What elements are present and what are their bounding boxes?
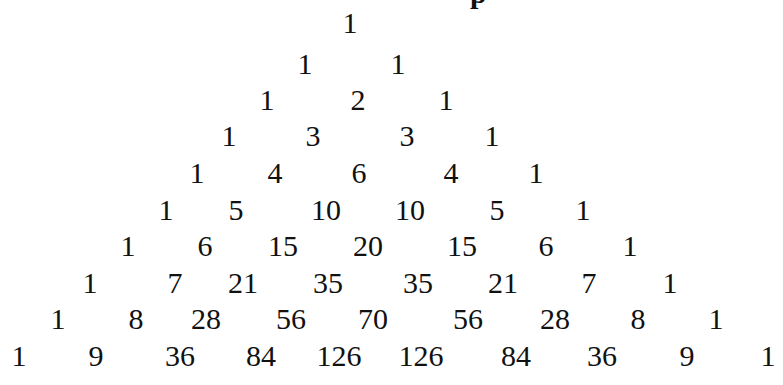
triangle-cell: 10 bbox=[395, 195, 425, 225]
triangle-cell: 3 bbox=[400, 121, 415, 151]
triangle-cell: 1 bbox=[222, 121, 237, 151]
triangle-cell: 28 bbox=[191, 304, 221, 334]
triangle-cell: 9 bbox=[89, 341, 104, 371]
triangle-cell: 1 bbox=[83, 268, 98, 298]
triangle-cell: 35 bbox=[313, 268, 343, 298]
triangle-cell: 28 bbox=[540, 304, 570, 334]
triangle-cell: 7 bbox=[168, 268, 183, 298]
triangle-cell: 1 bbox=[343, 8, 358, 38]
triangle-cell: 6 bbox=[198, 231, 213, 261]
triangle-cell: 1 bbox=[51, 304, 66, 334]
triangle-cell: 8 bbox=[129, 304, 144, 334]
triangle-cell: 9 bbox=[680, 341, 695, 371]
clipped-title-fragment: p bbox=[470, 0, 487, 8]
triangle-cell: 21 bbox=[228, 268, 258, 298]
triangle-cell: 8 bbox=[631, 304, 646, 334]
triangle-cell: 3 bbox=[306, 121, 321, 151]
triangle-cell: 1 bbox=[576, 195, 591, 225]
triangle-cell: 1 bbox=[623, 231, 638, 261]
triangle-cell: 36 bbox=[587, 341, 617, 371]
triangle-cell: 1 bbox=[121, 231, 136, 261]
triangle-cell: 84 bbox=[501, 341, 531, 371]
triangle-cell: 4 bbox=[268, 158, 283, 188]
triangle-cell: 1 bbox=[439, 85, 454, 115]
triangle-cell: 1 bbox=[159, 195, 174, 225]
triangle-cell: 6 bbox=[539, 231, 554, 261]
triangle-cell: 4 bbox=[444, 158, 459, 188]
triangle-cell: 10 bbox=[311, 195, 341, 225]
triangle-cell: 2 bbox=[351, 85, 366, 115]
triangle-cell: 1 bbox=[663, 268, 678, 298]
triangle-cell: 36 bbox=[165, 341, 195, 371]
triangle-cell: 70 bbox=[358, 304, 388, 334]
triangle-cell: 35 bbox=[403, 268, 433, 298]
pascals-triangle: p 11112113311464115101051161520156117213… bbox=[0, 0, 783, 385]
triangle-cell: 15 bbox=[447, 231, 477, 261]
triangle-cell: 126 bbox=[317, 341, 362, 371]
triangle-cell: 1 bbox=[298, 49, 313, 79]
triangle-cell: 126 bbox=[399, 341, 444, 371]
triangle-cell: 21 bbox=[488, 268, 518, 298]
triangle-cell: 1 bbox=[391, 49, 406, 79]
triangle-cell: 56 bbox=[276, 304, 306, 334]
triangle-cell: 1 bbox=[190, 158, 205, 188]
triangle-cell: 7 bbox=[582, 268, 597, 298]
triangle-cell: 6 bbox=[352, 158, 367, 188]
triangle-cell: 1 bbox=[761, 341, 776, 371]
triangle-cell: 1 bbox=[12, 341, 27, 371]
triangle-cell: 1 bbox=[260, 85, 275, 115]
triangle-cell: 5 bbox=[229, 195, 244, 225]
triangle-cell: 84 bbox=[246, 341, 276, 371]
triangle-cell: 1 bbox=[709, 304, 724, 334]
triangle-cell: 5 bbox=[490, 195, 505, 225]
triangle-cell: 20 bbox=[353, 231, 383, 261]
triangle-cell: 15 bbox=[268, 231, 298, 261]
triangle-cell: 1 bbox=[485, 121, 500, 151]
triangle-cell: 56 bbox=[453, 304, 483, 334]
triangle-cell: 1 bbox=[529, 158, 544, 188]
